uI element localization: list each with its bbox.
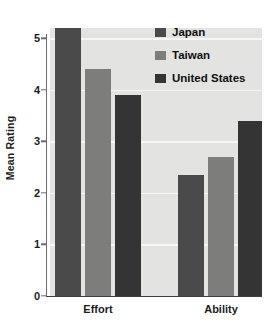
bar <box>178 175 204 296</box>
x-axis-line <box>46 296 262 297</box>
x-axis-tick-label: Effort <box>83 303 112 315</box>
legend-item: Taiwan <box>155 45 246 65</box>
y-axis-title-text: Mean Rating <box>4 116 16 181</box>
y-axis-tick-label: 2 <box>20 187 40 199</box>
y-axis-tick-label: 3 <box>20 135 40 147</box>
legend-item: United States <box>155 68 246 88</box>
y-axis-title: Mean Rating <box>0 0 20 296</box>
legend-swatch-icon <box>155 74 166 83</box>
gridline <box>50 141 262 143</box>
legend-label: Japan <box>172 26 205 38</box>
bar <box>208 157 234 296</box>
bar-chart: Mean Rating 012345 EffortAbility JapanTa… <box>0 0 270 331</box>
bar <box>238 121 262 296</box>
legend-label: United States <box>172 72 246 84</box>
legend-swatch-icon <box>155 28 166 37</box>
legend-label: Taiwan <box>172 49 210 61</box>
x-axis-tick-label: Ability <box>204 303 238 315</box>
bar <box>55 28 81 296</box>
y-axis-tick-label: 1 <box>20 238 40 250</box>
bar <box>115 95 141 296</box>
legend-item: Japan <box>155 22 246 42</box>
y-axis-tick-label: 0 <box>20 290 40 302</box>
legend: JapanTaiwanUnited States <box>155 22 246 91</box>
y-axis-tick-labels: 012345 <box>20 0 42 331</box>
y-axis-tick-label: 4 <box>20 84 40 96</box>
y-axis-line <box>46 34 47 297</box>
bar <box>85 69 111 296</box>
y-axis-tick-label: 5 <box>20 32 40 44</box>
legend-swatch-icon <box>155 51 166 60</box>
